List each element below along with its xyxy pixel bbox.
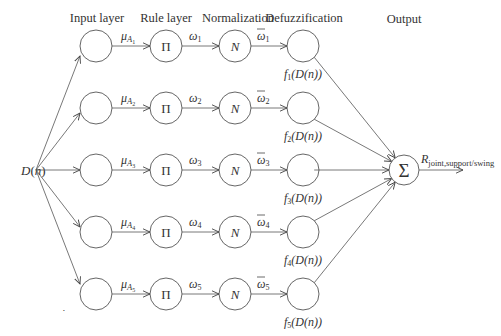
firing-strength-label: ω3 [189,153,201,168]
firing-strength-label: ω4 [189,215,201,230]
input-node [80,154,112,186]
normalized-weight-label: ω5 [257,277,269,292]
row-5: ΠNμA5ω5ω5f5(D(n)) [80,182,395,330]
firing-strength-label: ω1 [189,29,201,44]
normalization-symbol: N [230,163,241,178]
stray-mark: • [63,308,65,313]
consequent-function-label: f4(D(n)) [284,253,322,268]
input-node [80,30,112,62]
header-input-layer: Input layer [70,11,125,25]
row-3: ΠNμA3ω3ω3f3(D(n)) [80,153,389,206]
consequent-function-label: f3(D(n)) [284,191,322,206]
membership-label: μA2 [120,91,135,107]
header-rule-layer: Rule layer [140,11,193,25]
to-sum-arrow [314,182,395,283]
row-4: ΠNμA4ω4ω4f4(D(n)) [80,179,392,268]
normalized-weight-label: ω3 [257,153,269,168]
normalized-weight-label: ω4 [257,215,269,230]
membership-label: μA4 [120,215,135,231]
input-fanout-arrows [36,56,80,284]
to-sum-arrow [314,57,395,158]
product-symbol: Π [161,287,170,302]
input-node [80,278,112,310]
sum-symbol: Σ [398,160,409,181]
membership-label: μA5 [120,277,135,293]
normalized-weight-label: ω2 [257,91,269,106]
input-node [80,92,112,124]
normalization-symbol: N [230,225,241,240]
to-sum-arrow [314,179,391,221]
consequent-function-label: f1(D(n)) [284,67,322,82]
input-node [80,216,112,248]
input-label: D(n) [20,163,46,178]
header-output: Output [387,12,422,26]
consequent-function-label: f2(D(n)) [284,129,322,144]
anfis-diagram: Input layer Rule layer Normalization Def… [0,0,501,336]
normalization-symbol: N [230,39,241,54]
product-symbol: Π [161,101,170,116]
header-normalization: Normalization [202,11,275,25]
normalization-symbol: N [230,101,241,116]
header-defuzzification: Defuzzification [265,11,343,25]
to-sum-arrow [314,119,391,161]
consequent-function-label: f5(D(n)) [284,315,322,330]
product-symbol: Π [161,225,170,240]
row-2: ΠNμA2ω2ω2f2(D(n)) [80,91,392,161]
normalized-weight-label: ω1 [257,29,269,44]
product-symbol: Π [161,39,170,54]
output-label: Rjoint,support/swing [420,152,495,168]
firing-strength-label: ω2 [189,91,201,106]
membership-label: μA1 [120,29,135,45]
normalization-symbol: N [230,287,241,302]
product-symbol: Π [161,163,170,178]
membership-label: μA3 [120,153,135,169]
firing-strength-label: ω5 [189,277,201,292]
